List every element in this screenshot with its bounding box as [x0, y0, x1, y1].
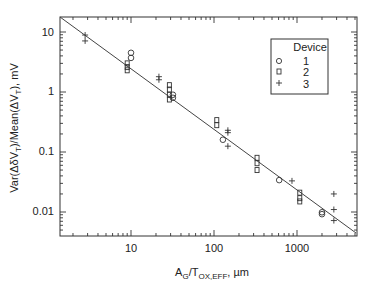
- y-tick-label-1: 1: [48, 85, 54, 97]
- legend: Device 1 2 3: [271, 39, 328, 94]
- plus-point: [289, 178, 295, 184]
- plus-point: [225, 143, 231, 149]
- plus-point: [156, 77, 162, 83]
- x-tick-label-10: 10: [125, 242, 137, 254]
- circle-point: [276, 177, 282, 183]
- square-point: [298, 199, 302, 204]
- x-axis-title: AG/TOX,EFF, µm: [175, 266, 249, 281]
- square-point: [125, 68, 129, 73]
- square-point: [215, 118, 219, 123]
- square-point: [298, 196, 302, 201]
- square-point: [215, 123, 219, 128]
- legend-label-3: 3: [303, 78, 309, 90]
- x-tick-label-1000: 1000: [285, 242, 309, 254]
- y-tick-label-0.1: 0.1: [39, 145, 54, 157]
- circle-point: [220, 137, 226, 143]
- plus-point: [82, 38, 88, 44]
- x-tick-labels: 10 100 1000: [125, 242, 309, 254]
- y-tick-labels: 10 1 0.1 0.01: [33, 26, 54, 217]
- plus-point: [331, 191, 337, 197]
- y-tick-label-10: 10: [42, 26, 54, 38]
- legend-title: Device: [293, 41, 327, 53]
- plus-point: [331, 207, 337, 213]
- x-tick-label-100: 100: [205, 242, 223, 254]
- y-tick-label-0.01: 0.01: [33, 205, 54, 217]
- square-point: [255, 168, 259, 173]
- legend-label-2: 2: [303, 66, 309, 78]
- y-axis-title: Var(ΔδVT)/Mean(ΔVT), mV: [8, 63, 23, 193]
- scatter-chart: 10 100 1000 10 1 0.1 0.01 AG/TOX,EFF, µm…: [0, 0, 372, 285]
